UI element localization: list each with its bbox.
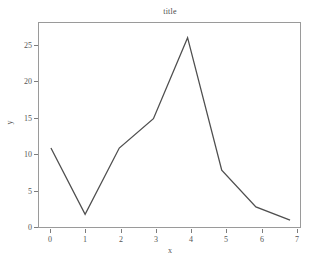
data-series-line: [51, 38, 290, 220]
x-tick-label: 7: [289, 236, 305, 244]
y-tick-label: 25: [12, 42, 32, 50]
y-tick-mark: [34, 118, 38, 119]
chart-title: title: [38, 7, 302, 17]
x-tick-mark: [156, 229, 157, 233]
x-axis-label: x: [38, 246, 302, 255]
x-tick-mark: [297, 229, 298, 233]
y-tick-mark: [34, 45, 38, 46]
x-tick-label: 2: [113, 236, 129, 244]
y-tick-label: 5: [12, 188, 32, 196]
y-tick-mark: [34, 191, 38, 192]
y-tick-mark: [34, 81, 38, 82]
y-axis-label: y: [5, 113, 14, 133]
y-tick-mark: [34, 154, 38, 155]
x-tick-label: 0: [42, 236, 58, 244]
x-tick-label: 6: [254, 236, 270, 244]
data-line-svg: [39, 23, 302, 229]
y-tick-mark: [34, 227, 38, 228]
x-tick-label: 1: [77, 236, 93, 244]
x-tick-label: 4: [183, 236, 199, 244]
x-tick-label: 5: [218, 236, 234, 244]
x-tick-mark: [226, 229, 227, 233]
x-tick-label: 3: [148, 236, 164, 244]
y-tick-label: 15: [12, 115, 32, 123]
plot-area: [38, 22, 301, 228]
x-tick-mark: [50, 229, 51, 233]
x-tick-mark: [121, 229, 122, 233]
y-tick-label: 10: [12, 151, 32, 159]
x-tick-mark: [191, 229, 192, 233]
x-tick-mark: [262, 229, 263, 233]
y-tick-label: 0: [12, 224, 32, 232]
chart-figure: title 0 5 10 15 20 25 0 1 2 3 4 5 6 7 x …: [0, 0, 316, 263]
x-tick-mark: [85, 229, 86, 233]
y-tick-label: 20: [12, 78, 32, 86]
